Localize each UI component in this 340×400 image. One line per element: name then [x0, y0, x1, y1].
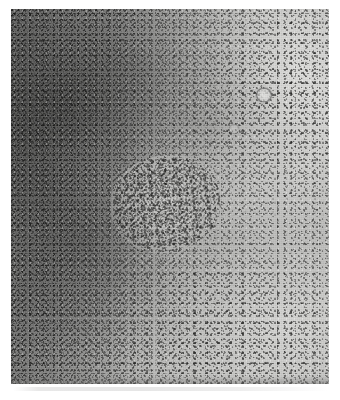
micrograph-plate[interactable]	[11, 9, 329, 384]
bottom-scanner-streak	[11, 376, 329, 384]
vignette-overlay	[11, 9, 329, 384]
page-canvas	[0, 0, 340, 400]
page-artifact-line	[13, 387, 329, 391]
